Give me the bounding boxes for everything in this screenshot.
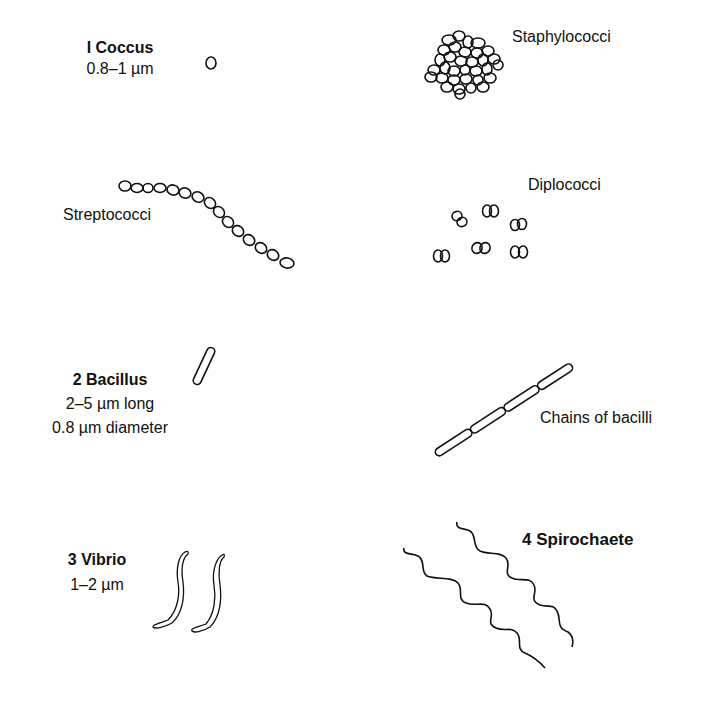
bacillus-rod-icon — [192, 346, 216, 386]
diplococcus-pair — [511, 246, 528, 258]
bacilli-chain-label: Chains of bacilli — [540, 408, 652, 428]
diplococcus-pair — [470, 241, 492, 256]
staphylococci-label: Staphylococci — [512, 27, 611, 47]
diagram-canvas — [0, 0, 713, 701]
diplococcus-pair — [451, 210, 468, 228]
bacillus-diameter: 0.8 µm diameter — [30, 418, 190, 438]
bacillus-title: 2 Bacillus — [30, 370, 190, 390]
vibrio-size: 1–2 µm — [52, 575, 142, 595]
streptococci-label: Streptococci — [63, 205, 151, 225]
coccus-title: I Coccus — [70, 38, 170, 58]
spirochaete-title: 4 Spirochaete — [522, 530, 634, 550]
vibrio-cells-icon — [153, 551, 224, 632]
diplococci-label: Diplococci — [528, 175, 601, 195]
staphylococci-cluster-icon — [425, 31, 503, 99]
coccus-cell-icon — [206, 57, 216, 69]
diplococcus-pair — [511, 219, 527, 231]
coccus-size: 0.8–1 µm — [70, 59, 170, 79]
diplococci-pairs-icon — [434, 205, 528, 262]
bacillus-length: 2–5 µm long — [30, 394, 190, 414]
vibrio-title: 3 Vibrio — [52, 550, 142, 570]
diplococcus-pair — [434, 250, 450, 262]
diplococcus-pair — [483, 205, 499, 217]
streptococci-chain-icon — [119, 181, 295, 269]
